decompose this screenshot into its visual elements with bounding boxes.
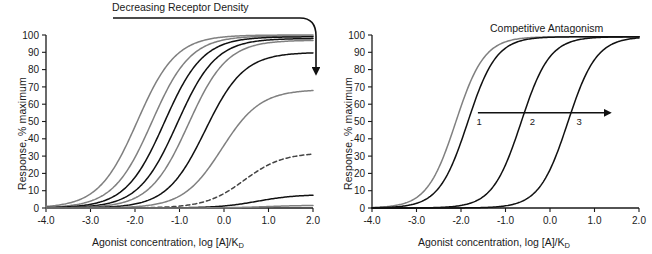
curve-number-label-2: 2 [530, 116, 535, 127]
y-axis-tick-label: 50 [354, 116, 366, 127]
y-axis-tick-label: 100 [22, 30, 39, 41]
x-axis-tick-label: -3.0 [82, 215, 100, 226]
x-axis-tick-label: -4.0 [363, 215, 381, 226]
x-axis-tick-label: 2.0 [632, 215, 646, 226]
x-axis-tick-label: -2.0 [452, 215, 470, 226]
response-curve-curve-7 [46, 91, 313, 208]
y-axis-tick-label: 20 [354, 168, 366, 179]
y-axis-tick-label: 40 [354, 133, 366, 144]
y-axis-tick-label: 0 [359, 203, 365, 214]
y-axis-tick-label: 90 [354, 47, 366, 58]
panel-right-plot: 0102030405060708090100-4.0-3.0-2.0-1.00.… [326, 0, 652, 254]
response-curve-curve-6 [46, 53, 313, 208]
panel-left-ylabel: Response, % maximum [16, 77, 28, 190]
y-axis-tick-label: 70 [354, 82, 366, 93]
x-axis-tick-label: 0.0 [217, 215, 231, 226]
panel-left-xlabel: Agonist concentration, log [A]/KD [92, 236, 244, 250]
curve-number-label-3: 3 [577, 116, 582, 127]
response-curve-curve-3 [372, 38, 639, 208]
y-axis-tick-label: 10 [354, 185, 366, 196]
y-axis-tick-label: 60 [354, 99, 366, 110]
x-axis-tick-label: -1.0 [497, 215, 515, 226]
y-axis-tick-label: 30 [354, 151, 366, 162]
x-axis-tick-label: -1.0 [171, 215, 189, 226]
y-axis-tick-label: 70 [28, 82, 40, 93]
x-axis-tick-label: 2.0 [306, 215, 320, 226]
response-curve-curve-2 [46, 36, 313, 207]
x-axis-tick-label: 1.0 [262, 215, 276, 226]
panel-left-plot: 0102030405060708090100-4.0-3.0-2.0-1.00.… [0, 0, 326, 254]
panel-competitive-antagonism: Competitive Antagonism 01020304050607080… [326, 0, 652, 254]
panel-right-xlabel-subscript: D [565, 241, 570, 250]
panel-decreasing-receptor-density: Decreasing Receptor Density 010203040506… [0, 0, 326, 254]
response-curve-curve-1 [372, 37, 639, 208]
y-axis-tick-label: 30 [28, 151, 40, 162]
figure-root: Decreasing Receptor Density 010203040506… [0, 0, 652, 254]
y-axis-tick-label: 50 [28, 116, 40, 127]
x-axis-tick-label: -3.0 [408, 215, 426, 226]
x-axis-tick-label: -4.0 [37, 215, 55, 226]
x-axis-tick-label: 1.0 [588, 215, 602, 226]
panel-left-xlabel-main: Agonist concentration, log [A]/K [92, 236, 239, 248]
y-axis-tick-label: 80 [354, 64, 366, 75]
y-axis-tick-label: 0 [33, 203, 39, 214]
y-axis-tick-label: 60 [28, 99, 40, 110]
panel-right-xlabel-main: Agonist concentration, log [A]/K [418, 236, 565, 248]
panel-right-ylabel: Response, % maximum [342, 77, 354, 190]
response-curve-curve-3 [46, 37, 313, 208]
y-axis-tick-label: 20 [28, 168, 40, 179]
x-axis-tick-label: -2.0 [126, 215, 144, 226]
response-curve-curve-2 [372, 37, 639, 208]
response-curve-curve-4 [46, 39, 313, 208]
response-curve-curve-1 [46, 35, 313, 206]
response-curve-control-gray [372, 37, 639, 208]
y-axis-tick-label: 100 [348, 30, 365, 41]
y-axis-tick-label: 10 [28, 185, 40, 196]
y-axis-tick-label: 40 [28, 133, 40, 144]
response-curve-curve-5 [46, 40, 313, 207]
panel-left-xlabel-subscript: D [239, 241, 244, 250]
x-axis-tick-label: 0.0 [543, 215, 557, 226]
decreasing-receptor-density-arrow [113, 18, 316, 74]
y-axis-tick-label: 90 [28, 47, 40, 58]
y-axis-tick-label: 80 [28, 64, 40, 75]
panel-right-xlabel: Agonist concentration, log [A]/KD [418, 236, 570, 250]
response-curve-curve-8 [46, 154, 313, 208]
curve-number-label-1: 1 [476, 116, 481, 127]
